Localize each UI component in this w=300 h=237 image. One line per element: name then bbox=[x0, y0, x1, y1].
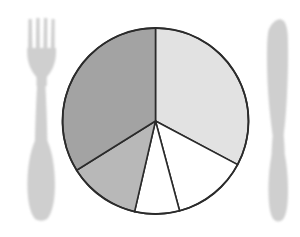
pie-chart bbox=[63, 28, 249, 214]
fork-icon bbox=[27, 18, 56, 221]
knife-handle bbox=[268, 155, 288, 221]
fork-head bbox=[27, 48, 56, 86]
knife-icon bbox=[267, 19, 288, 221]
illustration-canvas bbox=[0, 0, 300, 237]
knife-blade bbox=[267, 19, 288, 135]
fork-neck bbox=[35, 84, 48, 143]
plate-scene bbox=[0, 0, 300, 237]
fork-handle bbox=[27, 141, 55, 221]
knife-neck bbox=[272, 133, 285, 157]
